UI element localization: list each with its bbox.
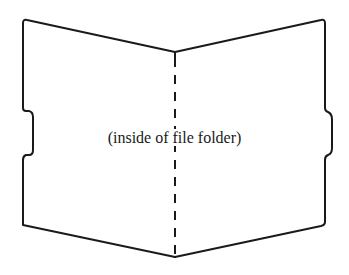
folder-label: (inside of file folder) bbox=[0, 129, 349, 147]
folder-label-text: (inside of file folder) bbox=[107, 129, 243, 146]
